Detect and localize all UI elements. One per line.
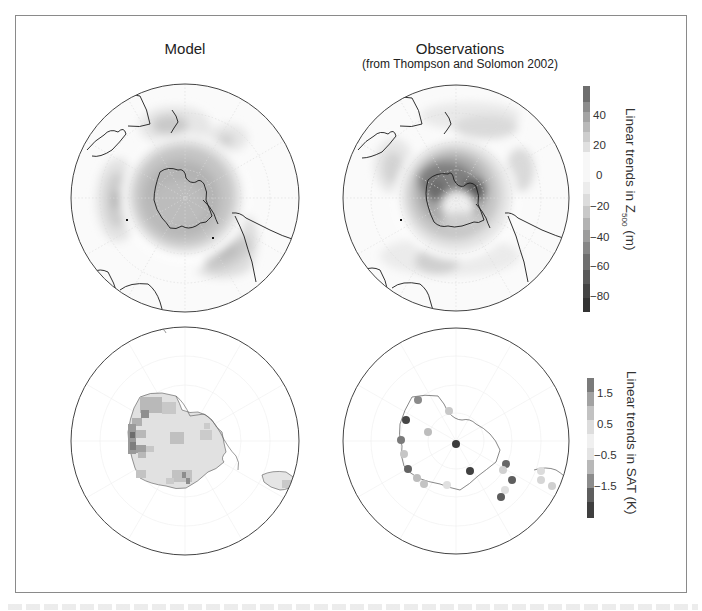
colorbar-z500-tick: −20 [590, 200, 610, 212]
caption-cropped [8, 604, 698, 610]
colorbar-z500-tick: 0 [596, 169, 602, 181]
colorbar-z500-tick: −80 [590, 290, 610, 302]
colorbar-sat-tick: 0.5 [597, 418, 613, 430]
colorbar-z500 [583, 86, 590, 312]
colorbar-sat-title: Linear trends in SAT (K) [624, 371, 639, 515]
colorbar-sat [587, 378, 594, 518]
colorbar-z500-tick: 40 [593, 109, 606, 121]
map-obs-z500 [343, 85, 569, 312]
map-obs-sat [343, 328, 569, 554]
colorbar-z500-title: Linear trends in Z500 (m) [620, 108, 638, 250]
colorbar-z500-tick: −60 [590, 260, 610, 272]
figure-maps [0, 0, 702, 611]
colorbar-sat-tick: −0.5 [594, 449, 617, 461]
map-model-sat [71, 327, 299, 555]
colorbar-sat-tick: −1.5 [594, 480, 617, 492]
colorbar-z500-tick: 20 [593, 139, 606, 151]
colorbar-sat-tick: 1.5 [597, 387, 613, 399]
colorbar-z500-tick: −40 [590, 231, 610, 243]
